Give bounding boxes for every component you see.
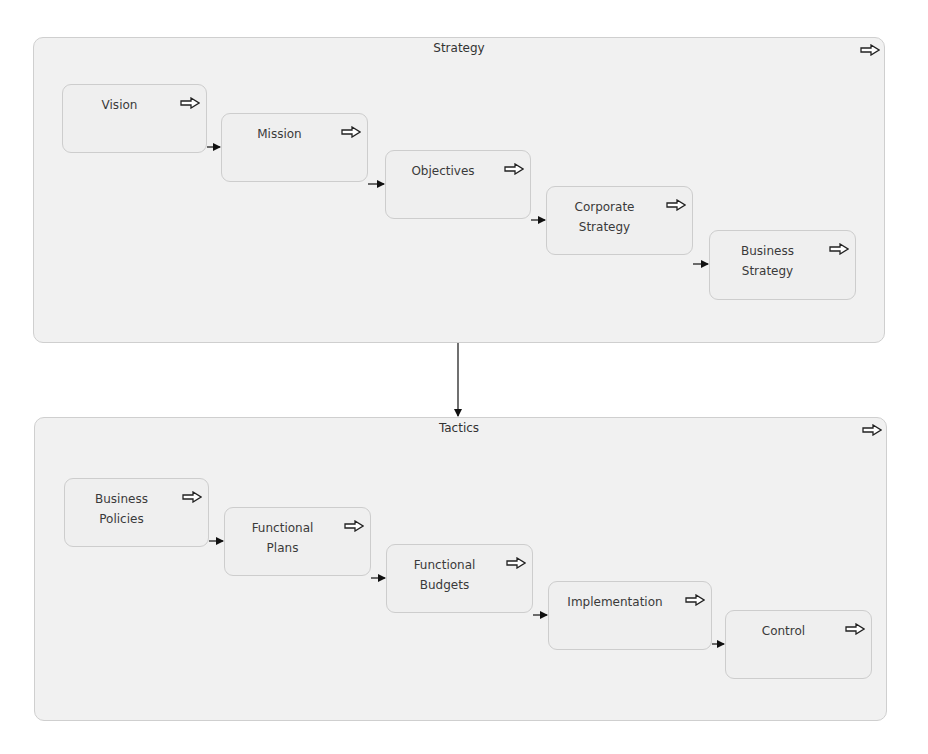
hollow-right-arrow-icon[interactable] bbox=[666, 199, 686, 211]
node-business-policies[interactable]: Business Policies bbox=[64, 478, 209, 547]
hollow-right-arrow-icon[interactable] bbox=[180, 97, 200, 109]
node-label: Mission bbox=[222, 124, 337, 144]
node-label: Vision bbox=[63, 95, 176, 115]
hollow-right-arrow-icon[interactable] bbox=[845, 623, 865, 635]
hollow-right-arrow-icon[interactable] bbox=[685, 594, 705, 606]
node-label: Control bbox=[726, 621, 841, 641]
strategy-group-title: Strategy bbox=[433, 41, 484, 55]
node-objectives[interactable]: Objectives bbox=[385, 150, 531, 219]
node-corporate-strategy[interactable]: Corporate Strategy bbox=[546, 186, 693, 255]
node-label: Business Policies bbox=[65, 489, 178, 529]
node-label: Implementation bbox=[549, 592, 681, 612]
node-functional-plans[interactable]: Functional Plans bbox=[224, 507, 371, 576]
node-label: Corporate Strategy bbox=[547, 197, 662, 237]
tactics-group-title: Tactics bbox=[439, 421, 479, 435]
node-vision[interactable]: Vision bbox=[62, 84, 207, 153]
hollow-right-arrow-icon[interactable] bbox=[862, 424, 882, 436]
node-label: Objectives bbox=[386, 161, 500, 181]
node-label: Functional Plans bbox=[225, 518, 340, 558]
node-functional-budgets[interactable]: Functional Budgets bbox=[386, 544, 533, 613]
node-label: Functional Budgets bbox=[387, 555, 502, 595]
hollow-right-arrow-icon[interactable] bbox=[829, 243, 849, 255]
hollow-right-arrow-icon[interactable] bbox=[506, 557, 526, 569]
node-business-strategy[interactable]: Business Strategy bbox=[709, 230, 856, 300]
node-label: Business Strategy bbox=[710, 241, 825, 281]
node-mission[interactable]: Mission bbox=[221, 113, 368, 182]
hollow-right-arrow-icon[interactable] bbox=[860, 44, 880, 56]
hollow-right-arrow-icon[interactable] bbox=[341, 126, 361, 138]
node-control[interactable]: Control bbox=[725, 610, 872, 679]
hollow-right-arrow-icon[interactable] bbox=[182, 491, 202, 503]
hollow-right-arrow-icon[interactable] bbox=[504, 163, 524, 175]
node-implementation[interactable]: Implementation bbox=[548, 581, 712, 650]
hollow-right-arrow-icon[interactable] bbox=[344, 520, 364, 532]
